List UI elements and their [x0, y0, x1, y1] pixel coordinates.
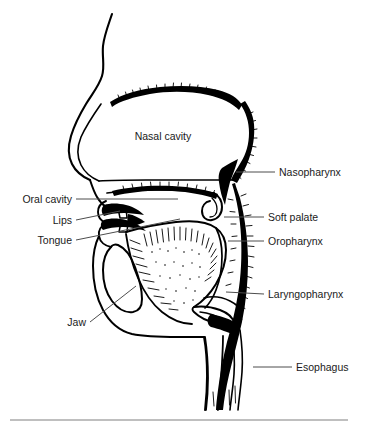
anatomy-figure: Nasal cavity Nasopharynx Soft palate Oro…: [0, 0, 367, 432]
label-jaw: Jaw: [67, 316, 86, 328]
label-laryngopharynx: Laryngopharynx: [268, 288, 344, 300]
label-oral-cavity: Oral cavity: [22, 193, 72, 205]
sagittal-head-diagram: Nasal cavity Nasopharynx Soft palate Oro…: [0, 0, 367, 432]
label-esophagus: Esophagus: [296, 361, 349, 373]
label-nasal-cavity: Nasal cavity: [135, 130, 192, 142]
label-oropharynx: Oropharynx: [268, 235, 324, 247]
label-nasopharynx: Nasopharynx: [279, 166, 342, 178]
label-tongue: Tongue: [38, 234, 73, 246]
hard-palate-superior-line: [99, 180, 233, 181]
label-lips: Lips: [53, 214, 72, 226]
label-soft-palate: Soft palate: [268, 211, 318, 223]
